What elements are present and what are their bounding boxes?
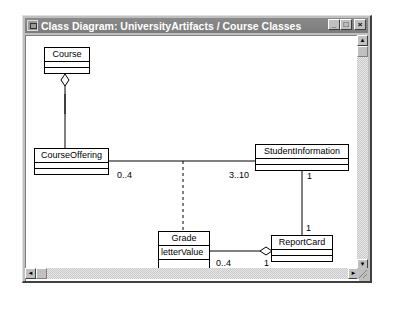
title-bar[interactable]: Class Diagram: UniversityArtifacts / Cou… xyxy=(25,18,368,33)
attribute-letter-value[interactable]: letterValue xyxy=(159,246,209,260)
vertical-scroll-thumb[interactable] xyxy=(357,46,368,57)
class-name: ReportCard xyxy=(272,236,332,250)
class-name: Course xyxy=(45,48,89,62)
operations-section xyxy=(35,169,108,174)
operations-section xyxy=(272,256,332,261)
class-course[interactable]: Course xyxy=(44,47,90,74)
multiplicity-label: 0..4 xyxy=(216,258,231,268)
close-button[interactable]: × xyxy=(354,19,366,30)
class-diagram-window: Class Diagram: UniversityArtifacts / Cou… xyxy=(22,15,372,283)
diagram-window-icon[interactable] xyxy=(27,20,38,31)
class-report-card[interactable]: ReportCard xyxy=(271,235,333,262)
diagram-canvas[interactable]: Course CourseOffering StudentInformation… xyxy=(25,35,359,281)
maximize-button[interactable]: □ xyxy=(340,19,352,30)
multiplicity-label: 1 xyxy=(307,171,312,181)
window-title: Class Diagram: UniversityArtifacts / Cou… xyxy=(41,20,301,32)
multiplicity-label: 3..10 xyxy=(229,170,249,180)
operations-section xyxy=(256,165,348,170)
resize-grip-icon[interactable] xyxy=(357,268,368,279)
horizontal-scrollbar[interactable]: ◄ ► xyxy=(25,268,359,279)
minimize-button[interactable]: _ xyxy=(328,19,340,30)
multiplicity-label: 1 xyxy=(306,223,311,233)
class-name: StudentInformation xyxy=(256,145,348,159)
aggregation-diamond-icon xyxy=(61,74,69,86)
vertical-scrollbar[interactable]: ▲ ▼ xyxy=(357,35,368,270)
class-student-information[interactable]: StudentInformation xyxy=(255,144,349,171)
operations-section xyxy=(45,68,89,73)
class-grade[interactable]: Grade letterValue xyxy=(158,231,210,273)
scroll-up-button[interactable]: ▲ xyxy=(357,35,368,46)
class-name: CourseOffering xyxy=(35,149,108,163)
multiplicity-label: 1 xyxy=(264,258,269,268)
horizontal-scroll-thumb[interactable] xyxy=(36,268,47,279)
window-controls: _ □ × xyxy=(328,19,366,30)
class-name: Grade xyxy=(159,232,209,246)
multiplicity-label: 0..4 xyxy=(117,170,132,180)
class-course-offering[interactable]: CourseOffering xyxy=(34,148,109,175)
scroll-left-button[interactable]: ◄ xyxy=(25,268,36,279)
